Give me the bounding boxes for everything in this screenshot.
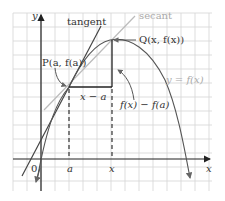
diagram: y x 0 a x tangent secant P(a, f(a)) Q(x,… — [0, 0, 225, 201]
rise-pointer-arrow — [118, 70, 134, 100]
tick-label-a: a — [67, 163, 73, 174]
point-p-label: P(a, f(a)) — [42, 57, 86, 68]
y-axis-label: y — [31, 10, 38, 21]
tangent-label: tangent — [67, 16, 106, 27]
origin-label: 0 — [31, 163, 37, 174]
secant-label: secant — [139, 10, 172, 21]
point-q-label: Q(x, f(x)) — [139, 34, 184, 45]
rise-label: f(x) − f(a) — [119, 99, 169, 110]
x-axis-label: x — [206, 163, 212, 174]
run-label: x − a — [80, 91, 106, 102]
tick-label-x: x — [109, 163, 115, 174]
curve-label: y = f(x) — [165, 74, 204, 85]
